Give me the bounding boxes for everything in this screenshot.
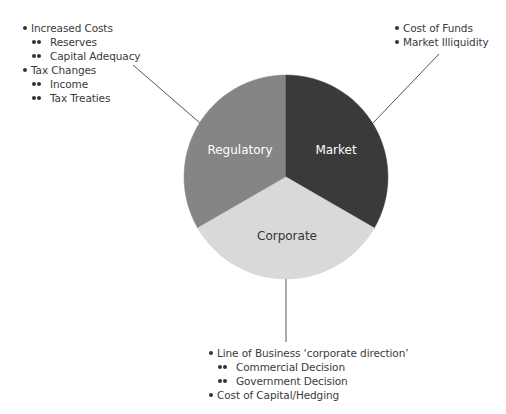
list-item-line-of-business: Line of Business ‘corporate direction’ <box>209 346 408 360</box>
slice-label-regulatory: Regulatory <box>207 143 272 157</box>
leader-line-market <box>372 54 439 124</box>
list-item-cost-of-capital: Cost of Capital/Hedging <box>209 388 408 402</box>
list-item-capital-adequacy: Capital Adequacy <box>23 49 140 63</box>
slice-label-market: Market <box>315 143 357 157</box>
list-item-increased-costs: Increased Costs <box>23 21 140 35</box>
slice-label-corporate: Corporate <box>257 229 317 243</box>
leader-line-regulatory <box>133 65 200 123</box>
market-factors-list: Cost of Funds Market Illiquidity <box>395 21 489 49</box>
list-item-tax-treaties: Tax Treaties <box>23 91 140 105</box>
regulatory-factors-list: Increased Costs Reserves Capital Adequac… <box>23 21 140 105</box>
list-item-tax-changes: Tax Changes <box>23 63 140 77</box>
list-item-market-illiquidity: Market Illiquidity <box>395 35 489 49</box>
list-item-reserves: Reserves <box>23 35 140 49</box>
list-item-government-decision: Government Decision <box>209 374 408 388</box>
corporate-factors-list: Line of Business ‘corporate direction’ C… <box>209 346 408 402</box>
list-item-commercial-decision: Commercial Decision <box>209 360 408 374</box>
list-item-cost-of-funds: Cost of Funds <box>395 21 489 35</box>
list-item-income: Income <box>23 77 140 91</box>
